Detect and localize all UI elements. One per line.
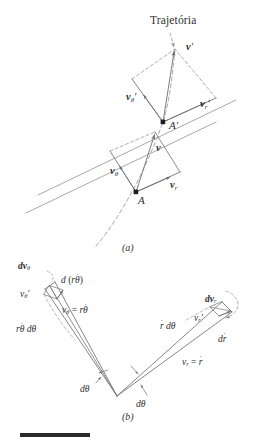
label-d-r-thetadot: d (rθ˙) bbox=[61, 276, 83, 286]
label-rdot-dtheta: r˙ dθ bbox=[160, 322, 176, 332]
radial-line-upper bbox=[38, 100, 236, 195]
label-v-r-equation: vr = r˙ bbox=[182, 358, 202, 368]
vtheta-limb-inner bbox=[55, 282, 117, 396]
parallelogram-prime-dash-2 bbox=[175, 49, 216, 98]
figure-root: Trajetória v′ vθ′ vr′ A′ v vθ vr A (a) d… bbox=[0, 0, 264, 442]
label-dv-theta: dvθ bbox=[18, 262, 30, 272]
vector-label-v-theta-prime: vθ′ bbox=[126, 92, 136, 103]
panel-a-drawing bbox=[26, 33, 236, 246]
vector-vtheta bbox=[120, 166, 137, 192]
vector-label-v-r: vr bbox=[170, 180, 177, 191]
vector-label-v: v bbox=[156, 143, 161, 154]
label-dv-r: dvr bbox=[205, 295, 216, 305]
vector-label-v-prime: v′ bbox=[186, 42, 193, 53]
d-rdot-arrow bbox=[219, 312, 231, 317]
vector-vtheta-prime bbox=[144, 95, 164, 122]
vector-label-v-r-prime: vr′ bbox=[200, 99, 210, 110]
parallelogram-prime-dash-1 bbox=[132, 49, 175, 79]
label-dtheta-right: dθ bbox=[136, 400, 145, 410]
label-dtheta-left: dθ bbox=[80, 385, 89, 395]
vector-v-prime bbox=[163, 51, 174, 122]
vector-vr bbox=[136, 177, 170, 192]
label-d-rdot: dr˙ bbox=[218, 335, 226, 345]
radial-line-lower bbox=[26, 122, 216, 213]
point-label-A: A bbox=[138, 195, 145, 206]
bottom-rule bbox=[20, 433, 90, 437]
point-label-A-prime: A′ bbox=[169, 120, 178, 131]
label-v-r-prime-b: vr′ bbox=[194, 314, 203, 324]
label-r-thetadot-dtheta: rθ˙ dθ bbox=[16, 325, 36, 335]
dtheta-right-arrow-lower bbox=[141, 385, 147, 395]
point-A-prime-dot bbox=[161, 120, 166, 125]
vr-limb-inner bbox=[117, 302, 222, 396]
vector-label-v-theta: vθ bbox=[110, 166, 118, 177]
panel-a-label: (a) bbox=[122, 243, 134, 253]
dv-theta-leader bbox=[47, 271, 53, 282]
panel-b-drawing bbox=[44, 271, 238, 396]
panel-b-label: (b) bbox=[122, 412, 134, 422]
label-v-theta-prime-b: vθ′ bbox=[20, 290, 29, 300]
dv-r-leader bbox=[226, 291, 238, 318]
dtheta-left-arrow-lower bbox=[96, 377, 101, 383]
trajectory-arrow bbox=[170, 33, 174, 47]
figure-drawing bbox=[0, 0, 264, 442]
dtheta-right-arrow-upper bbox=[131, 366, 138, 374]
label-v-theta-equation: vθ = rθ˙ bbox=[62, 306, 88, 316]
trajectory-title: Trajetória bbox=[150, 15, 196, 27]
parallelogram-dash-1 bbox=[110, 132, 155, 151]
